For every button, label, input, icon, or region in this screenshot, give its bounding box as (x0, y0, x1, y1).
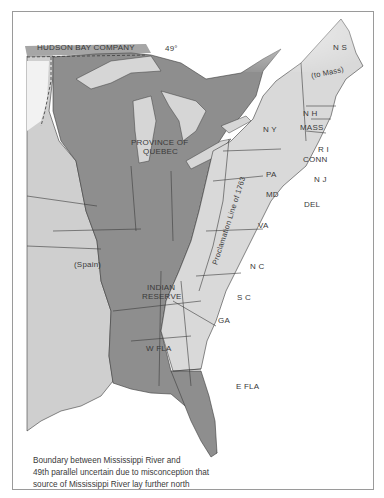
label-delaware: DEL (304, 201, 320, 209)
map-graphic (13, 12, 373, 489)
label-south-carolina: S C (237, 294, 251, 302)
label-maryland: MD (266, 191, 279, 199)
map-frame: HUDSON BAY COMPANY 49° N S (to Mass) N H… (12, 11, 374, 490)
label-pennsylvania: PA (266, 171, 276, 179)
label-nova-scotia: N S (333, 44, 347, 52)
label-hudson-bay-company: HUDSON BAY COMPANY (37, 44, 135, 52)
label-georgia: GA (218, 317, 230, 325)
label-north-carolina: N C (250, 263, 264, 271)
label-new-york: N Y (263, 126, 277, 134)
label-connecticut: CONN (303, 156, 327, 164)
footnote-line-3: source of Mississippi River lay further … (33, 479, 233, 490)
label-virginia: VA (258, 222, 268, 230)
map-footnote: Boundary between Mississippi River and 4… (33, 455, 233, 490)
label-rhode-island: R I (318, 146, 329, 154)
label-west-florida: W FLA (146, 345, 171, 353)
label-province-of-quebec-1: PROVINCE OF (131, 139, 188, 147)
label-east-florida: E FLA (236, 383, 259, 391)
label-new-hampshire: N H (303, 110, 317, 118)
label-indian-reserve-1: INDIAN (147, 284, 175, 292)
label-49th-parallel: 49° (165, 45, 178, 53)
label-spain: (Spain) (74, 261, 101, 269)
east-florida-region (171, 371, 217, 457)
label-new-jersey: N J (314, 176, 327, 184)
label-massachusetts: MASS (300, 124, 323, 132)
label-indian-reserve-2: RESERVE (142, 293, 182, 301)
label-province-of-quebec-2: QUEBEC (143, 148, 178, 156)
footnote-line-2: 49th parallel uncertain due to misconcep… (33, 467, 233, 479)
footnote-line-1: Boundary between Mississippi River and (33, 455, 233, 467)
